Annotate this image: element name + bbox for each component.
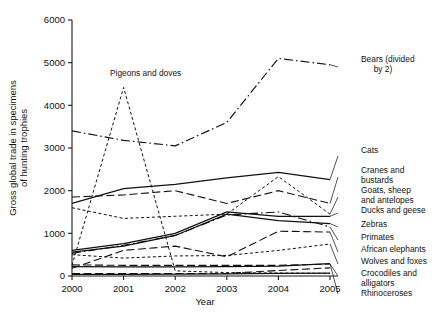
series-leader-line: [330, 244, 338, 264]
y-axis-ticks: 0100020003000400050006000: [44, 14, 72, 281]
x-tick-label: 2002: [165, 283, 186, 294]
y-tick-label: 2000: [44, 185, 65, 196]
series-label: Pigeons and doves: [110, 68, 181, 78]
series-leader-line: [330, 232, 338, 252]
leader-lines: [330, 65, 338, 294]
y-tick-label: 3000: [44, 142, 65, 153]
series-label: Bears (divided: [361, 54, 415, 64]
y-tick-label: 5000: [44, 57, 65, 68]
series-leader-line: [330, 213, 338, 216]
series-label: Primates: [361, 232, 394, 242]
series-leader-line: [330, 264, 338, 276]
series-leader-line: [330, 65, 338, 67]
series-line: [72, 214, 330, 252]
x-tick-label: 2000: [61, 283, 82, 294]
series-leader-line: [330, 156, 338, 180]
series-label: Crocodiles and: [361, 268, 417, 278]
series-label: Goats, sheep: [361, 185, 411, 195]
series-leader-line: [330, 227, 338, 240]
series-label: Rhinoceroses: [361, 288, 412, 298]
series-label: alligators: [361, 278, 395, 288]
y-axis-title-line1: Gross global trade in specimens: [7, 80, 18, 216]
x-axis-title: Year: [195, 296, 214, 307]
x-tick-label: 2001: [113, 283, 134, 294]
chart-figure: 0100020003000400050006000 20002001200220…: [0, 0, 440, 323]
series-label: Cats: [361, 145, 378, 155]
y-tick-label: 0: [60, 270, 65, 281]
x-axis-ticks: 200020012002200320042005: [61, 276, 340, 294]
series-label: Ducks and geese: [361, 205, 426, 215]
series-labels: Bears (dividedby 2)Pigeons and dovesCats…: [110, 54, 427, 298]
series-line: [72, 212, 330, 253]
series-line: [72, 231, 330, 268]
x-tick-label: 2003: [216, 283, 237, 294]
series-label: Wolves and foxes: [361, 256, 427, 266]
y-tick-label: 4000: [44, 100, 65, 111]
y-axis-title-line2: of hunting trophies: [18, 109, 29, 187]
series-label: bustards: [361, 175, 393, 185]
x-tick-label: 2004: [268, 283, 289, 294]
series-label: African elephants: [361, 244, 426, 254]
series-label: Zebras: [361, 219, 387, 229]
y-tick-label: 1000: [44, 228, 65, 239]
series-line: [72, 172, 330, 203]
series-label: Cranes and: [361, 165, 405, 175]
series-layer: [72, 58, 330, 274]
series-label: by 2): [374, 64, 393, 74]
series-line: [72, 212, 330, 250]
line-chart: 0100020003000400050006000 20002001200220…: [0, 0, 440, 323]
y-tick-label: 6000: [44, 14, 65, 25]
series-leader-line: [330, 224, 338, 227]
series-label: and antelopes: [361, 195, 414, 205]
